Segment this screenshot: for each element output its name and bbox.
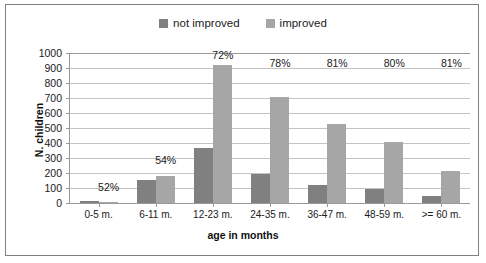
y-tick-label: 900 bbox=[22, 63, 62, 74]
x-tick-mark bbox=[270, 203, 271, 207]
bar-group: 48-59 m. bbox=[356, 53, 413, 203]
percentage-annotation: 81% bbox=[441, 57, 462, 69]
bar-improved bbox=[384, 142, 403, 203]
bar-improved bbox=[441, 171, 460, 203]
percentage-annotation: 78% bbox=[269, 57, 290, 69]
bar-group: 12-23 m. bbox=[184, 53, 241, 203]
percentage-annotation: 80% bbox=[384, 57, 405, 69]
bar-group: 6-11 m. bbox=[127, 53, 184, 203]
x-axis-title: age in months bbox=[6, 229, 480, 241]
legend-label-improved: improved bbox=[280, 17, 327, 29]
y-tick-label: 0 bbox=[22, 198, 62, 209]
bar-not-improved bbox=[251, 174, 270, 203]
x-tick-label: 24-35 m. bbox=[241, 209, 298, 220]
y-tick-label: 700 bbox=[22, 93, 62, 104]
plot-area: 100090080070060050040030020010000-5 m.6-… bbox=[69, 53, 470, 204]
bar-group: 24-35 m. bbox=[241, 53, 298, 203]
percentage-annotation: 54% bbox=[155, 154, 176, 166]
y-tick-label: 300 bbox=[22, 153, 62, 164]
x-tick-label: >= 60 m. bbox=[413, 209, 470, 220]
chart-frame: not improved improved N. children 100090… bbox=[5, 4, 479, 256]
x-tick-label: 6-11 m. bbox=[127, 209, 184, 220]
bar-group-bars bbox=[241, 53, 298, 203]
bar-improved bbox=[327, 124, 346, 204]
y-tick-label: 800 bbox=[22, 78, 62, 89]
bar-not-improved bbox=[80, 201, 99, 203]
y-tick-label: 500 bbox=[22, 123, 62, 134]
percentage-annotation: 72% bbox=[212, 49, 233, 61]
bar-group-bars bbox=[184, 53, 241, 203]
y-tick-label: 100 bbox=[22, 183, 62, 194]
bar-group-bars bbox=[299, 53, 356, 203]
y-tick-label: 200 bbox=[22, 168, 62, 179]
bar-not-improved bbox=[308, 185, 327, 203]
percentage-annotation: 81% bbox=[327, 57, 348, 69]
bar-group-bars bbox=[413, 53, 470, 203]
x-tick-label: 12-23 m. bbox=[184, 209, 241, 220]
bar-improved bbox=[213, 65, 232, 203]
x-tick-mark bbox=[156, 203, 157, 207]
y-tick-mark bbox=[66, 203, 70, 204]
x-tick-mark bbox=[441, 203, 442, 207]
x-tick-label: 36-47 m. bbox=[299, 209, 356, 220]
x-tick-mark bbox=[327, 203, 328, 207]
x-tick-mark bbox=[213, 203, 214, 207]
legend-label-not-improved: not improved bbox=[173, 17, 239, 29]
bar-group: >= 60 m. bbox=[413, 53, 470, 203]
legend-swatch-improved bbox=[266, 19, 275, 28]
legend-entry-not-improved: not improved bbox=[159, 17, 239, 29]
bar-not-improved bbox=[137, 180, 156, 203]
bar-improved bbox=[99, 202, 118, 204]
bar-group-bars bbox=[356, 53, 413, 203]
bar-not-improved bbox=[365, 189, 384, 203]
bar-not-improved bbox=[422, 196, 441, 203]
bar-improved bbox=[156, 176, 175, 203]
y-tick-label: 1000 bbox=[22, 48, 62, 59]
x-tick-label: 48-59 m. bbox=[356, 209, 413, 220]
x-tick-mark bbox=[99, 203, 100, 207]
y-tick-label: 600 bbox=[22, 108, 62, 119]
bar-group-bars bbox=[127, 53, 184, 203]
legend-swatch-not-improved bbox=[159, 19, 168, 28]
chart-legend: not improved improved bbox=[6, 17, 480, 29]
x-tick-mark bbox=[384, 203, 385, 207]
x-tick-label: 0-5 m. bbox=[70, 209, 127, 220]
percentage-annotation: 52% bbox=[98, 181, 119, 193]
bar-group: 36-47 m. bbox=[299, 53, 356, 203]
legend-entry-improved: improved bbox=[266, 17, 327, 29]
y-tick-label: 400 bbox=[22, 138, 62, 149]
bar-improved bbox=[270, 97, 289, 204]
bar-not-improved bbox=[194, 148, 213, 203]
